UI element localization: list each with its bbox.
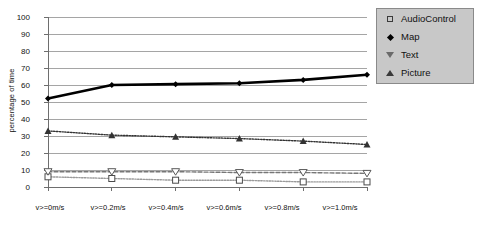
legend-item-label: Picture bbox=[401, 67, 431, 79]
filled-triangle-up-marker-icon bbox=[383, 66, 397, 80]
open-triangle-down-marker-icon bbox=[383, 48, 397, 62]
open-square-marker-icon bbox=[383, 12, 397, 26]
line-chart: percentage of time 100 90 80 70 60 50 40… bbox=[0, 0, 481, 242]
legend-item-label: AudioControl bbox=[401, 13, 456, 25]
filled-diamond-marker-icon bbox=[383, 30, 397, 44]
legend-item-label: Map bbox=[401, 31, 419, 43]
legend-item-label: Text bbox=[401, 49, 418, 61]
legend-item-text[interactable]: Text bbox=[383, 47, 418, 63]
legend: AudioControl Map Text Picture bbox=[376, 8, 474, 84]
legend-item-audiocontrol[interactable]: AudioControl bbox=[383, 11, 456, 27]
legend-item-picture[interactable]: Picture bbox=[383, 65, 431, 81]
legend-item-map[interactable]: Map bbox=[383, 29, 419, 45]
